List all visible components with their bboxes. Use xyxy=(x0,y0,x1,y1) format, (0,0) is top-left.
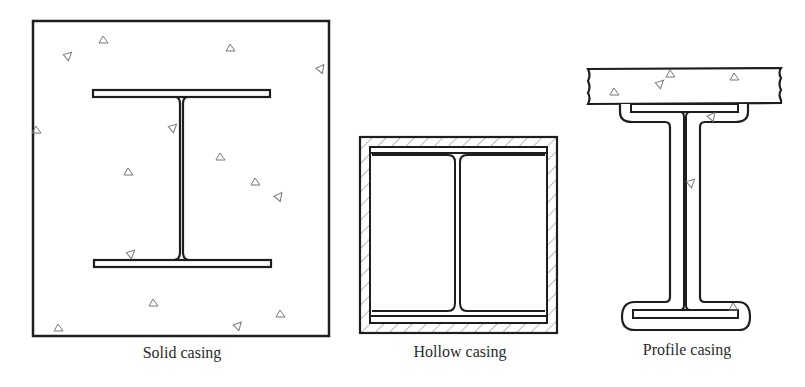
composite-column-casing-diagram xyxy=(0,0,805,387)
concrete-slab xyxy=(588,68,781,104)
profile-casing-label: Profile casing xyxy=(643,341,731,359)
hollow-casing-panel xyxy=(360,137,557,333)
steel-i-section xyxy=(631,104,738,318)
hollow-casing-label: Hollow casing xyxy=(414,343,507,361)
solid-casing-panel xyxy=(32,21,329,336)
solid-casing-label: Solid casing xyxy=(143,344,222,362)
profile-casing-panel xyxy=(588,68,781,330)
